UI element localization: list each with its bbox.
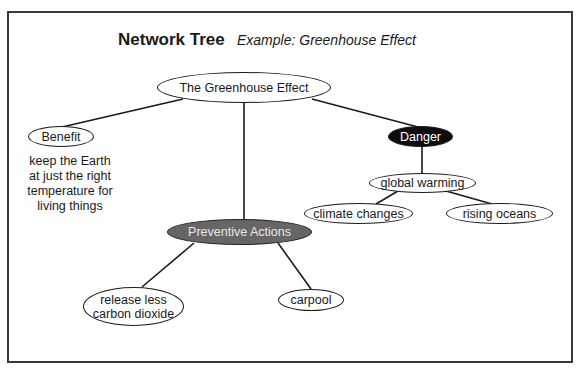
edge-preventive-release-less <box>142 243 194 287</box>
node-benefit-label: Benefit <box>42 130 81 144</box>
note-line: living things <box>16 199 124 214</box>
node-release-less-carbon-dioxide: release less carbon dioxide <box>83 287 184 326</box>
node-danger: Danger <box>388 126 453 147</box>
node-root-label: The Greenhouse Effect <box>179 81 308 95</box>
node-global-warming: global warming <box>369 173 476 193</box>
edge-preventive-carpool <box>278 243 311 289</box>
node-climate-changes: climate changes <box>304 203 413 224</box>
node-preventive-actions-label: Preventive Actions <box>188 225 291 239</box>
node-rising-oceans: rising oceans <box>446 203 553 224</box>
node-carpool: carpool <box>278 289 344 311</box>
edge-root-danger <box>312 99 418 127</box>
note-line: keep the Earth <box>16 154 124 169</box>
edge-root-benefit <box>62 99 183 127</box>
node-benefit: Benefit <box>28 126 94 147</box>
benefit-description: keep the Earth at just the right tempera… <box>16 154 124 214</box>
node-preventive-actions: Preventive Actions <box>167 219 312 245</box>
node-root: The Greenhouse Effect <box>157 72 331 103</box>
node-rising-oceans-label: rising oceans <box>463 207 537 221</box>
node-release-less-label-line2: carbon dioxide <box>93 307 174 321</box>
node-release-less-label-line1: release less <box>100 293 167 307</box>
note-line: at just the right <box>16 169 124 184</box>
node-global-warming-label: global warming <box>380 176 464 190</box>
edge-global-warming-rising-oceans <box>446 191 492 204</box>
node-climate-changes-label: climate changes <box>313 207 403 221</box>
note-line: temperature for <box>16 184 124 199</box>
node-danger-label: Danger <box>400 130 441 144</box>
edge-global-warming-climate-changes <box>376 191 398 204</box>
node-carpool-label: carpool <box>291 293 332 307</box>
